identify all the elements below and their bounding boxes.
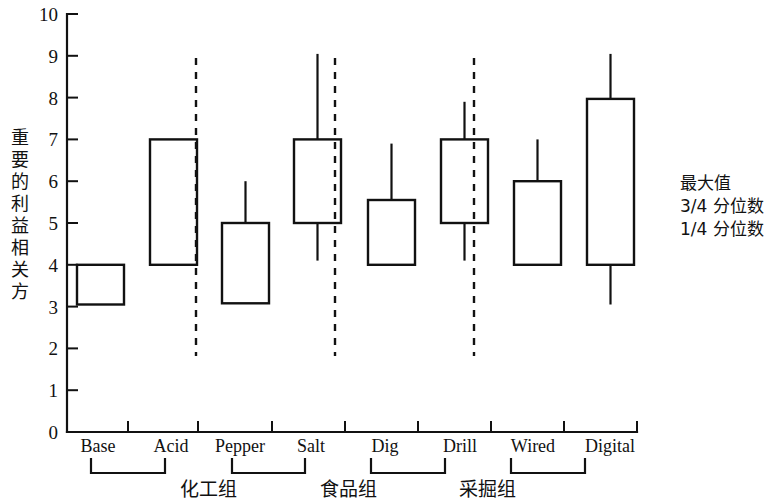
box-series-pepper [222, 181, 269, 303]
y-axis-title-char-0: 重 [11, 127, 29, 148]
y-tick-label-2: 2 [49, 338, 59, 359]
x-axis-label-base: Base [81, 436, 116, 456]
group-bracket-mining [371, 458, 445, 473]
y-tick-label-5: 5 [49, 213, 59, 234]
y-axis-title-char-2: 的 [11, 171, 29, 192]
legend-entry-max: 最大值 [680, 173, 731, 193]
box-series-dig [368, 144, 415, 265]
box-series-drill [441, 102, 488, 261]
y-axis-title-char-4: 益 [11, 215, 29, 236]
x-axis-label-acid: Acid [154, 436, 189, 456]
x-axis-label-drill: Drill [443, 436, 477, 456]
group-bracket-chem [91, 458, 165, 473]
box-series-base [77, 265, 124, 305]
y-tick-label-10: 10 [39, 4, 58, 25]
legend-entry-q3: 3/4 分位数 [680, 196, 764, 216]
y-tick-label-0: 0 [49, 422, 59, 443]
x-axis-ticks [67, 421, 637, 432]
group-bracket-fourth [511, 458, 585, 473]
y-axis-title: 重 要 的 利 益 相 关 方 [11, 127, 29, 302]
y-axis-title-char-3: 利 [11, 193, 29, 214]
group-label-food: 食品组 [320, 478, 377, 500]
box-acid [150, 139, 197, 264]
y-axis-title-char-6: 关 [11, 259, 29, 280]
y-tick-label-8: 8 [49, 88, 59, 109]
box-salt [294, 139, 341, 223]
box-digital [587, 99, 634, 265]
legend: 最大值 3/4 分位数 1/4 分位数 [680, 173, 764, 239]
box-series-acid [150, 139, 197, 264]
y-tick-label-9: 9 [49, 46, 59, 67]
group-label-mining: 采掘组 [459, 478, 516, 500]
box-series-wired [514, 139, 561, 264]
y-axis-ticks [67, 14, 78, 390]
group-label-chem: 化工组 [180, 478, 237, 500]
y-tick-label-7: 7 [49, 129, 59, 150]
box-base [77, 265, 124, 305]
x-axis-label-dig: Dig [372, 436, 399, 456]
y-tick-label-1: 1 [49, 380, 59, 401]
box-range-chart: 10 9 8 7 6 5 4 3 2 1 0 重 要 的 利 益 相 关 方 [0, 0, 776, 502]
y-axis-title-char-5: 相 [11, 237, 29, 258]
box-series-digital [587, 54, 634, 305]
x-axis-label-digital: Digital [585, 436, 635, 456]
y-tick-label-4: 4 [49, 255, 59, 276]
y-axis-title-char-1: 要 [11, 149, 29, 170]
y-axis-title-char-7: 方 [11, 281, 29, 302]
legend-entry-q1: 1/4 分位数 [680, 219, 764, 239]
group-bracket-food [232, 458, 305, 473]
x-axis-label-salt: Salt [297, 436, 325, 456]
box-pepper [222, 223, 269, 303]
box-drill [441, 139, 488, 223]
box-dig [368, 200, 415, 265]
box-wired [514, 181, 561, 265]
y-tick-label-6: 6 [49, 171, 59, 192]
x-axis-label-wired: Wired [511, 436, 555, 456]
y-tick-label-3: 3 [49, 297, 59, 318]
chart-canvas: 10 9 8 7 6 5 4 3 2 1 0 重 要 的 利 益 相 关 方 [0, 0, 776, 502]
x-axis-label-pepper: Pepper [215, 436, 265, 456]
